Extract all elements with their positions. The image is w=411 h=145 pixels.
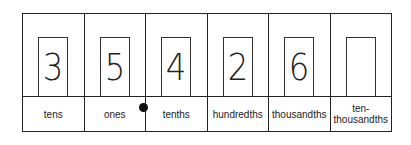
digit: 2 bbox=[227, 48, 248, 86]
digit: 3 bbox=[43, 48, 64, 86]
column-ten-thousandths: ten- thousandths bbox=[331, 14, 392, 131]
digit-box bbox=[346, 37, 376, 96]
digit-box: 3 bbox=[38, 37, 68, 96]
digit-box: 2 bbox=[223, 37, 253, 96]
digit: 5 bbox=[104, 48, 125, 86]
place-value-chart: 3 tens 5 ones 4 tenths 2 hundredths 6 th… bbox=[22, 13, 392, 132]
digit: 6 bbox=[289, 48, 310, 86]
place-label: tenths bbox=[146, 97, 207, 131]
column-ones: 5 ones bbox=[85, 14, 147, 131]
digit: 4 bbox=[166, 48, 187, 86]
digit-box: 5 bbox=[100, 37, 130, 96]
place-label: ones bbox=[85, 97, 146, 131]
place-label: tens bbox=[23, 97, 84, 131]
place-label: thousandths bbox=[269, 97, 330, 131]
place-label: ten- thousandths bbox=[331, 97, 392, 131]
digit-box: 6 bbox=[284, 37, 314, 96]
column-thousandths: 6 thousandths bbox=[269, 14, 331, 131]
column-tens: 3 tens bbox=[23, 14, 85, 131]
decimal-point-dot bbox=[139, 103, 148, 112]
column-hundredths: 2 hundredths bbox=[208, 14, 270, 131]
place-label: hundredths bbox=[208, 97, 269, 131]
column-tenths: 4 tenths bbox=[146, 14, 208, 131]
digit-box: 4 bbox=[161, 37, 191, 96]
